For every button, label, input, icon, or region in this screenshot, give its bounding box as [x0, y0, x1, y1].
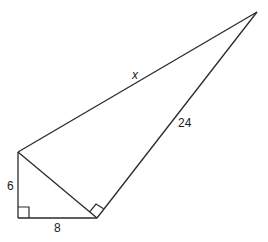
label-long-leg: 24 — [178, 116, 192, 130]
triangle-diagram: 6 8 24 x — [0, 0, 268, 242]
x-hypotenuse-edge — [18, 12, 257, 152]
right-angle-mark-bottom-right — [90, 204, 104, 212]
label-left-leg: 6 — [7, 179, 14, 193]
label-hypotenuse-x: x — [131, 68, 139, 82]
long-leg-edge — [97, 12, 257, 218]
label-bottom-leg: 8 — [54, 221, 61, 235]
shared-hypotenuse-edge — [18, 152, 97, 218]
right-angle-mark-bottom-left — [18, 207, 29, 218]
diagram-canvas: 6 8 24 x — [0, 0, 268, 242]
